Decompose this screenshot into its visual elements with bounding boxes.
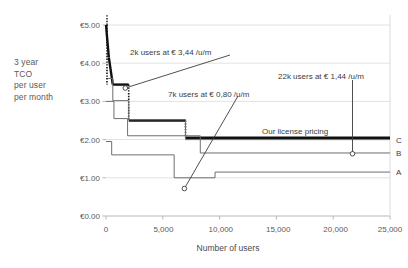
annotation-our-license-pricing: Our license pricing <box>262 127 328 136</box>
annotation-22k-users: 22k users at € 1,44 /u/m <box>278 72 364 81</box>
axis-lines <box>103 15 391 220</box>
plot-area <box>0 0 408 268</box>
series-label-c: C <box>396 135 402 144</box>
annotation-7k-users: 7k users at € 0,80 /u/m <box>168 90 249 99</box>
annotation-2k-users: 2k users at € 3,44 /u/m <box>130 48 211 57</box>
chart-container: 3 year TCO per user per month €5.00 €4.0… <box>0 0 408 268</box>
series-label-b: B <box>396 148 401 157</box>
series-label-a: A <box>396 168 401 177</box>
